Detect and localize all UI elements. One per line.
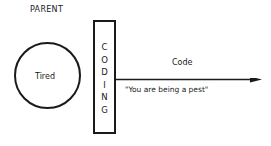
arrow-label: Code <box>172 58 192 67</box>
coding-letter: D <box>95 66 114 79</box>
coding-letter: O <box>95 54 114 67</box>
parent-label: PARENT <box>30 5 63 14</box>
coding-diagram: PARENT Tired C O D I N G Code "You are b… <box>0 0 271 146</box>
coding-letter: I <box>95 79 114 92</box>
message-text: "You are being a pest" <box>125 85 208 94</box>
coding-letter: N <box>95 91 114 104</box>
coding-letter: C <box>95 41 114 54</box>
coding-letters: C O D I N G <box>95 41 114 116</box>
coding-letter: G <box>95 104 114 117</box>
coding-box: C O D I N G <box>93 20 116 134</box>
feeling-label: Tired <box>35 72 55 81</box>
